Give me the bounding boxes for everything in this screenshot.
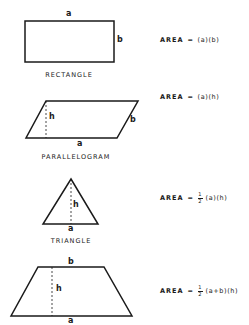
triangle-shape bbox=[43, 179, 98, 224]
triangle-label-a: a bbox=[68, 225, 73, 233]
triangle-formula: AREA = 1 2 (a)(h) bbox=[160, 192, 227, 204]
formula-word: AREA bbox=[160, 195, 184, 202]
formula-equals: = bbox=[188, 195, 194, 202]
formula-expression: (a)(h) bbox=[206, 195, 228, 202]
formula-expression: (a+b)(h) bbox=[206, 288, 239, 295]
trapezoid-shape bbox=[11, 267, 132, 316]
parallelogram-label-b: b bbox=[130, 116, 136, 124]
fraction-one-half: 1 2 bbox=[198, 192, 203, 204]
formula-equals: = bbox=[188, 94, 194, 101]
trapezoid-formula: AREA = 1 2 (a+b)(h) bbox=[160, 285, 238, 297]
parallelogram-caption: PARALLELOGRAM bbox=[42, 154, 111, 161]
formula-expression: (a)(b) bbox=[198, 37, 220, 44]
fraction-numerator: 1 bbox=[198, 285, 202, 290]
formula-word: AREA bbox=[160, 37, 184, 44]
formula-equals: = bbox=[188, 288, 194, 295]
trapezoid-label-a: a bbox=[68, 317, 73, 325]
rectangle-caption: RECTANGLE bbox=[45, 72, 93, 79]
formula-expression: (a)(h) bbox=[198, 94, 220, 101]
shapes-drawing bbox=[0, 0, 249, 325]
fraction-numerator: 1 bbox=[198, 192, 202, 197]
trapezoid-label-b: b bbox=[68, 258, 74, 266]
rectangle-label-b: b bbox=[117, 36, 123, 44]
parallelogram-label-a: a bbox=[77, 140, 82, 148]
rectangle-label-a: a bbox=[66, 10, 71, 18]
rectangle-shape bbox=[25, 21, 114, 62]
formula-equals: = bbox=[188, 37, 194, 44]
parallelogram-label-h: h bbox=[49, 113, 55, 121]
trapezoid-label-h: h bbox=[56, 285, 62, 293]
parallelogram-shape bbox=[26, 101, 138, 138]
fraction-one-half: 1 2 bbox=[198, 285, 203, 297]
triangle-label-h: h bbox=[73, 201, 79, 209]
parallelogram-formula: AREA = (a)(h) bbox=[160, 94, 219, 101]
triangle-caption: TRIANGLE bbox=[51, 238, 91, 245]
fraction-denominator: 2 bbox=[198, 292, 202, 297]
formula-word: AREA bbox=[160, 94, 184, 101]
fraction-denominator: 2 bbox=[198, 199, 202, 204]
rectangle-formula: AREA = (a)(b) bbox=[160, 37, 219, 44]
formula-word: AREA bbox=[160, 288, 184, 295]
